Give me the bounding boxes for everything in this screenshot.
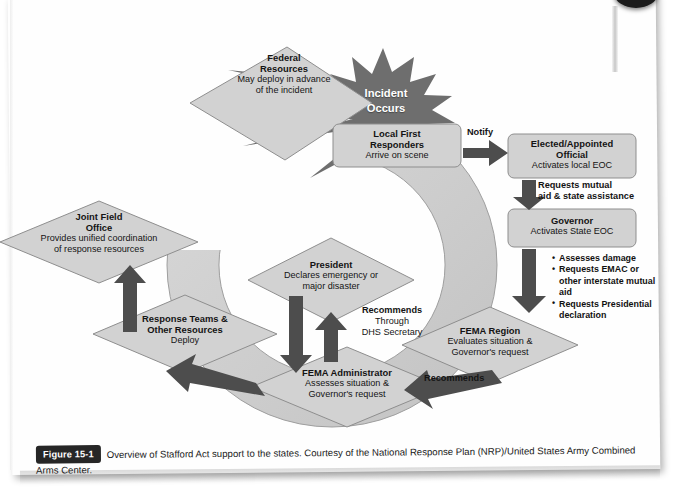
- list-item: Requests Presidential declaration: [552, 299, 656, 322]
- node-label-response-teams: Response Teams & Other Resources Deploy: [99, 313, 271, 346]
- edge-label-notify: Notify: [452, 127, 508, 138]
- governor-actions-list: Assesses damage Requests EMAC or other i…: [552, 253, 656, 321]
- edge-label-requests-mutual-aid: Requests mutual aid & state assistance: [538, 180, 680, 202]
- arrow-notify: [463, 140, 508, 166]
- node-label-president: President Declares emergency or major di…: [245, 259, 417, 292]
- edge-label-recommends-region: Recommends: [424, 373, 514, 384]
- figure-caption: Figure 15-1Overview of Stafford Act supp…: [36, 440, 646, 479]
- node-label-joint-field-office: Joint Field Office Provides unified coor…: [13, 211, 185, 255]
- figure-number-badge: Figure 15-1: [36, 445, 101, 464]
- figure-caption-text: Overview of Stafford Act support to the …: [36, 444, 635, 476]
- edge-label-recommends-dhs: Recommends Through DHS Secretary: [344, 305, 440, 337]
- list-item: Requests EMAC or other interstate mutual…: [552, 264, 656, 298]
- scanned-page: Incident Occurs Federal Resources May de…: [0, 0, 680, 503]
- node-label-federal-resources: Federal Resources May deploy in advance …: [196, 52, 372, 96]
- node-label-fema-administrator: FEMA Administrator Assesses situation & …: [259, 367, 435, 400]
- list-item: Assesses damage: [552, 253, 656, 264]
- arrow-governor-to-fema-region: [512, 249, 546, 313]
- node-label-elected-appointed-official: Elected/Appointed Official Activates loc…: [506, 138, 638, 171]
- node-label-governor: Governor Activates State EOC: [506, 215, 638, 237]
- node-label-local-first-responders: Local First Responders Arrive on scene: [333, 128, 461, 161]
